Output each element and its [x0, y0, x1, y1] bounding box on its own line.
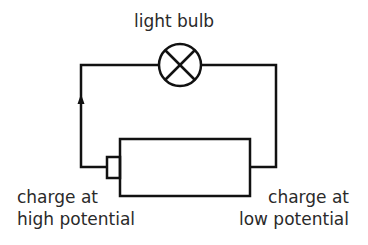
- wire-right: [201, 65, 276, 167]
- high-potential-label-line2: high potential: [17, 208, 135, 230]
- high-potential-label: charge at high potential: [17, 186, 135, 230]
- battery-positive-terminal: [107, 157, 120, 178]
- light-bulb-icon: [159, 44, 201, 86]
- low-potential-label-line1: charge at: [239, 186, 349, 208]
- current-arrow-icon: [78, 94, 85, 104]
- high-potential-label-line1: charge at: [17, 186, 135, 208]
- light-bulb-label: light bulb: [134, 10, 214, 32]
- low-potential-label: charge at low potential: [239, 186, 349, 230]
- low-potential-label-line2: low potential: [239, 208, 349, 230]
